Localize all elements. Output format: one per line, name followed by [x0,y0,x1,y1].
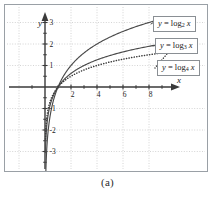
svg-text:2: 2 [50,40,54,49]
svg-text:4: 4 [97,90,101,99]
x-axis-label: x [177,75,181,85]
svg-text:3: 3 [50,18,54,27]
plot-frame: 2468321-1-2-3 y x y = log2 x y = log3 x … [4,4,208,172]
svg-text:1: 1 [50,61,54,70]
legend-item-log3: y = log3 x [155,38,198,54]
svg-text:-2: -2 [50,126,56,135]
y-axis-label: y [38,18,42,28]
svg-text:8: 8 [149,90,153,99]
svg-text:-3: -3 [50,147,56,156]
svg-text:2: 2 [71,90,75,99]
svg-text:6: 6 [123,90,127,99]
legend-base-log4: 4 [186,66,189,72]
legend-item-log4: y = log4 x [157,60,200,76]
legend-base-log2: 2 [182,22,185,28]
legend-base-log3: 3 [184,44,187,50]
svg-text:-1: -1 [50,104,56,113]
axes [9,12,180,169]
legend-item-log2: y = log2 x [153,16,196,32]
figure-caption: (a) [0,176,215,188]
figure-panel: 2468321-1-2-3 y x y = log2 x y = log3 x … [0,0,215,202]
